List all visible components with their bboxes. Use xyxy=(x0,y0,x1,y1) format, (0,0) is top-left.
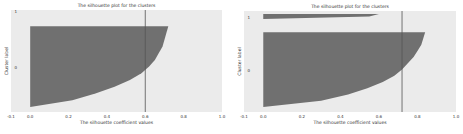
x-tick-label: 1.0 xyxy=(453,114,460,119)
x-tick-label: 0.4 xyxy=(104,114,111,119)
y-axis-label: Cluster label xyxy=(237,47,242,75)
x-axis-label: The silhouette coefficient values xyxy=(312,120,387,125)
x-tick-label: 0.0 xyxy=(260,114,267,119)
chart-svg: 01-0.10.00.20.40.60.81.0The silhouette p… xyxy=(0,0,232,134)
y-axis-label: Cluster label xyxy=(4,47,9,75)
silhouette-chart-left: 01-0.10.00.20.40.60.81.0The silhouette p… xyxy=(0,0,232,134)
x-tick-label: 0.4 xyxy=(337,114,344,119)
x-tick-label: 0.2 xyxy=(299,114,306,119)
x-tick-label: -0.1 xyxy=(240,114,248,119)
chart-svg: 10-0.10.00.20.40.60.81.0The silhouette p… xyxy=(232,0,463,134)
chart-title: The silhouette plot for the clusters xyxy=(310,4,389,9)
x-axis-label: The silhouette coefficient values xyxy=(79,120,154,125)
x-tick-label: 0.0 xyxy=(27,114,34,119)
x-tick-label: 0.2 xyxy=(65,114,72,119)
x-tick-label: -0.1 xyxy=(7,114,15,119)
x-tick-label: 1.0 xyxy=(219,114,226,119)
chart-title: The silhouette plot for the clusters xyxy=(77,3,156,8)
x-tick-label: 0.8 xyxy=(414,114,421,119)
silhouette-chart-right: 10-0.10.00.20.40.60.81.0The silhouette p… xyxy=(232,0,463,134)
x-tick-label: 0.6 xyxy=(376,114,383,119)
x-tick-label: 0.8 xyxy=(180,114,187,119)
x-tick-label: 0.6 xyxy=(142,114,149,119)
